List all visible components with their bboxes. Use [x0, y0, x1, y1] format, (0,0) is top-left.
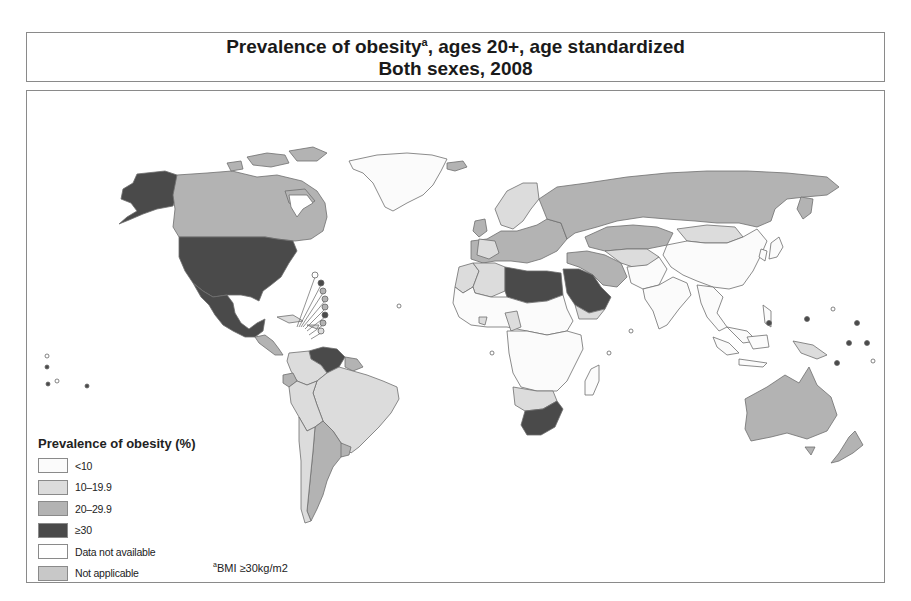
legend-label: Data not available	[75, 546, 155, 558]
legend-label: <10	[75, 460, 92, 472]
region-madagascar	[585, 365, 599, 395]
region-se-asia	[697, 285, 771, 343]
region-uk	[473, 219, 487, 237]
region-algeria	[473, 263, 505, 297]
region-central-america	[255, 335, 283, 355]
region-new-zealand	[831, 431, 863, 463]
legend-swatch	[38, 523, 68, 538]
map-frame: Prevalence of obesity (%) <10 10–19.9 20…	[26, 90, 885, 583]
legend-item: Not applicable	[38, 563, 196, 585]
region-png	[793, 341, 827, 359]
region-tasmania	[805, 447, 815, 455]
legend-item: 10–19.9	[38, 477, 196, 499]
map-subtitle: Both sexes, 2008	[27, 58, 884, 80]
legend-title: Prevalence of obesity (%)	[38, 436, 196, 451]
legend-label: Not applicable	[75, 567, 139, 579]
region-iceland	[447, 161, 467, 171]
region-central-africa	[507, 331, 583, 391]
region-alaska	[119, 171, 177, 224]
region-north-africa	[505, 267, 563, 303]
legend-item: ≥30	[38, 520, 196, 542]
map-title-box: Prevalence of obesitya, ages 20+, age st…	[26, 32, 885, 82]
legend-swatch	[38, 458, 68, 473]
region-greenland	[349, 153, 447, 211]
region-kazakhstan	[585, 225, 673, 251]
bmi-footnote: aBMI ≥30kg/m2	[213, 562, 288, 574]
map-title: Prevalence of obesitya, ages 20+, age st…	[27, 36, 884, 58]
region-arctic-islands	[227, 147, 327, 171]
region-scandinavia	[495, 183, 539, 229]
legend-swatch	[38, 566, 68, 581]
footnote-text: BMI ≥30kg/m2	[217, 562, 288, 574]
legend-swatch	[38, 544, 68, 559]
title-suffix: , ages 20+, age standardized	[428, 36, 685, 57]
region-guianas	[345, 357, 363, 371]
title-text: Prevalence of obesity	[226, 36, 421, 57]
map-legend: Prevalence of obesity (%) <10 10–19.9 20…	[38, 436, 196, 584]
legend-item: <10	[38, 455, 196, 477]
legend-swatch	[38, 480, 68, 495]
legend-label: ≥30	[75, 524, 92, 536]
legend-item: Data not available	[38, 541, 196, 563]
legend-label: 10–19.9	[75, 481, 112, 493]
region-australia	[745, 367, 837, 441]
region-kamchatka	[797, 197, 813, 219]
region-usa	[179, 237, 297, 301]
legend-label: 20–29.9	[75, 503, 112, 515]
legend-item: 20–29.9	[38, 498, 196, 520]
legend-swatch	[38, 501, 68, 516]
